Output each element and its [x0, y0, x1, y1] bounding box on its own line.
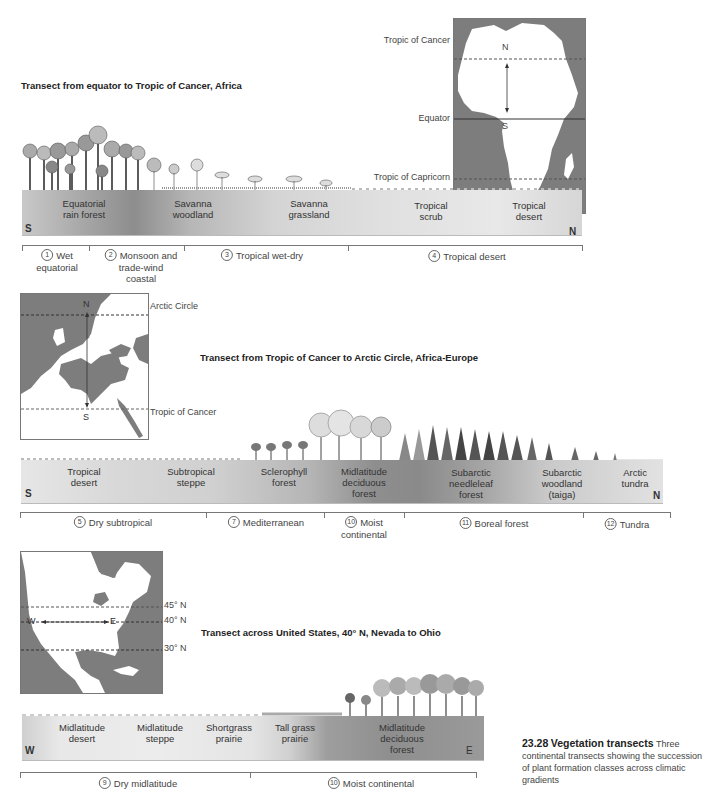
transect-3-title: Transect across United States, 40° N, Ne… — [201, 627, 441, 638]
figure-number: 23.28 — [522, 737, 548, 749]
band-tick — [670, 512, 671, 518]
map-arrow-north-label: N — [502, 42, 509, 52]
band-tick — [324, 512, 325, 518]
formation-label: Sclerophyllforest — [261, 466, 307, 488]
formation-label: Savannawoodland — [173, 198, 214, 220]
band-tick — [250, 772, 251, 778]
band-tick — [22, 245, 23, 251]
climate-band-axis — [20, 772, 477, 773]
climate-band: 10Moistcontinental — [341, 517, 387, 540]
climate-band: 2Monsoon andtrade-windcoastal — [105, 250, 178, 284]
band-tick — [582, 245, 583, 251]
map-line-label: 45° N — [164, 600, 187, 610]
map-line-label: Tropic of Cancer — [384, 35, 450, 45]
formation-label: Shortgrassprairie — [206, 722, 252, 744]
vegetation-illustration — [21, 405, 663, 461]
climate-band-axis — [22, 245, 583, 246]
formation-label: Subarcticneedleleafforest — [449, 467, 493, 500]
map-line-label: 40° N — [164, 615, 187, 625]
transect-1-title: Transect from equator to Tropic of Cance… — [21, 80, 242, 91]
band-tick — [20, 512, 21, 518]
band-tick — [476, 772, 477, 778]
climate-band: 7Mediterranean — [228, 517, 304, 529]
band-tick — [404, 512, 405, 518]
direction-label-west: W — [25, 745, 34, 756]
map-arrow-east-label: E — [110, 616, 116, 626]
map-line-label: Arctic Circle — [150, 301, 198, 311]
band-tick — [583, 512, 584, 518]
climate-band: 4Tropical desert — [428, 251, 505, 263]
map-line-label: 30° N — [164, 643, 187, 653]
band-tick — [348, 245, 349, 251]
climate-band: 12Tundra — [605, 519, 650, 531]
formation-label: Savannagrassland — [288, 198, 329, 220]
map-arrow-north-label: N — [83, 299, 90, 309]
formation-label: Tall grassprairie — [275, 722, 315, 744]
climate-band-axis — [20, 512, 671, 513]
formation-label: Tropicaldesert — [512, 200, 545, 222]
formation-label: Equatorialrain forest — [63, 198, 106, 220]
formation-label: Subtropicalsteppe — [167, 466, 215, 488]
figure-title: Vegetation transects — [551, 737, 654, 749]
formation-label: Midlatitudedesert — [59, 722, 105, 744]
direction-label-south: S — [25, 488, 32, 499]
climate-band: 1Wetequatorial — [36, 250, 78, 273]
vegetation-illustration — [22, 672, 484, 717]
formation-label: Tropicalscrub — [414, 200, 447, 222]
climate-band: 11Boreal forest — [460, 518, 529, 530]
formation-label: Midlatitudedeciduousforest — [379, 722, 425, 755]
band-tick — [20, 772, 21, 778]
direction-label-south: S — [25, 223, 32, 234]
formation-label: Tropicaldesert — [67, 466, 100, 488]
formation-label: Midlatitudedeciduousforest — [341, 466, 387, 499]
transect-2-title: Transect from Tropic of Cancer to Arctic… — [200, 352, 478, 363]
band-tick — [184, 245, 185, 251]
formation-label: Arctictundra — [622, 467, 649, 489]
climate-band: 3Tropical wet-dry — [221, 250, 303, 262]
climate-band: 9Dry midlatitude — [99, 778, 177, 790]
direction-label-north: N — [569, 226, 576, 237]
direction-label-north: N — [653, 490, 660, 501]
climate-band: 10Moist continental — [328, 778, 414, 790]
formation-label: Midlatitudesteppe — [137, 722, 183, 744]
band-tick — [206, 512, 207, 518]
formation-label: Subarcticwoodland(taiga) — [542, 467, 583, 500]
figure-caption: 23.28 Vegetation transects Three contine… — [522, 737, 707, 786]
map-line-label: Equator — [418, 113, 450, 123]
climate-band: 5Dry subtropical — [74, 517, 152, 529]
direction-label-east: E — [466, 745, 473, 756]
band-tick — [89, 245, 90, 251]
vegetation-illustration — [22, 125, 582, 191]
map-arrow-west-label: W — [27, 616, 36, 626]
